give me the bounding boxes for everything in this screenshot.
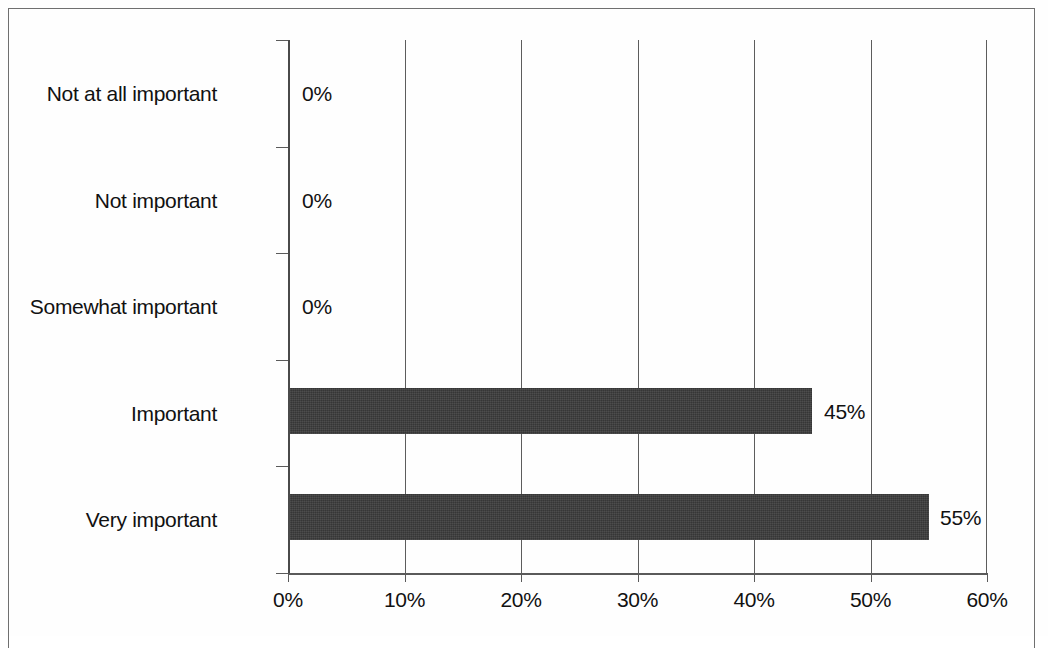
category-label-not-at-all-important: Not at all important	[0, 82, 217, 106]
x-axis-label-10: 10%	[360, 588, 450, 612]
y-axis-tick-0	[276, 40, 288, 41]
x-axis-label-0: 0%	[243, 588, 333, 612]
category-row-very-important: Very important 55%	[288, 466, 987, 573]
category-label-very-important: Very important	[0, 508, 217, 532]
x-axis-label-30: 30%	[593, 588, 683, 612]
bar-very-important	[288, 494, 929, 540]
bar-value-important: 45%	[824, 400, 865, 424]
plot-area: Not at all important 0% Not important 0%…	[288, 40, 987, 573]
x-axis-tick-10	[405, 573, 406, 582]
bar-value-not-important: 0%	[302, 189, 332, 213]
bar-important	[288, 388, 812, 434]
category-label-important: Important	[0, 402, 217, 426]
category-row-not-at-all-important: Not at all important 0%	[288, 40, 987, 147]
x-axis-label-60: 60%	[942, 588, 1032, 612]
y-axis-tick-4	[276, 466, 288, 467]
category-row-important: Important 45%	[288, 360, 987, 467]
category-label-not-important: Not important	[0, 189, 217, 213]
x-axis-tick-60	[987, 573, 988, 582]
x-axis-tick-50	[871, 573, 872, 582]
bar-value-not-at-all-important: 0%	[302, 82, 332, 106]
y-axis-tick-3	[276, 360, 288, 361]
category-row-somewhat-important: Somewhat important 0%	[288, 253, 987, 360]
x-axis-label-50: 50%	[826, 588, 916, 612]
bar-value-very-important: 55%	[940, 506, 981, 530]
x-axis-tick-0	[288, 573, 289, 582]
y-axis-line	[288, 40, 290, 573]
x-axis-tick-20	[521, 573, 522, 582]
category-row-not-important: Not important 0%	[288, 147, 987, 254]
y-axis-tick-1	[276, 147, 288, 148]
x-axis-tick-40	[754, 573, 755, 582]
x-axis-label-40: 40%	[709, 588, 799, 612]
category-label-somewhat-important: Somewhat important	[0, 295, 217, 319]
y-axis-tick-2	[276, 253, 288, 254]
bar-value-somewhat-important: 0%	[302, 295, 332, 319]
x-axis-label-20: 20%	[476, 588, 566, 612]
x-axis-tick-30	[638, 573, 639, 582]
y-axis-tick-5	[276, 573, 288, 574]
